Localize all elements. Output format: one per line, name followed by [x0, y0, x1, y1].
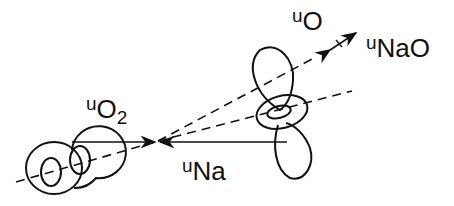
- label-u-o2: uO2: [86, 96, 127, 122]
- u-o-vector: [330, 33, 356, 50]
- label-u-nao: uNaO: [366, 35, 430, 61]
- label-u-o: uO: [292, 8, 323, 34]
- o2-molecule: [26, 126, 126, 194]
- orbital-axis-dashed: [158, 91, 352, 141]
- diagram-canvas: [0, 0, 454, 206]
- label-u-na: uNa: [182, 158, 226, 184]
- na-p-orbital: [253, 47, 312, 178]
